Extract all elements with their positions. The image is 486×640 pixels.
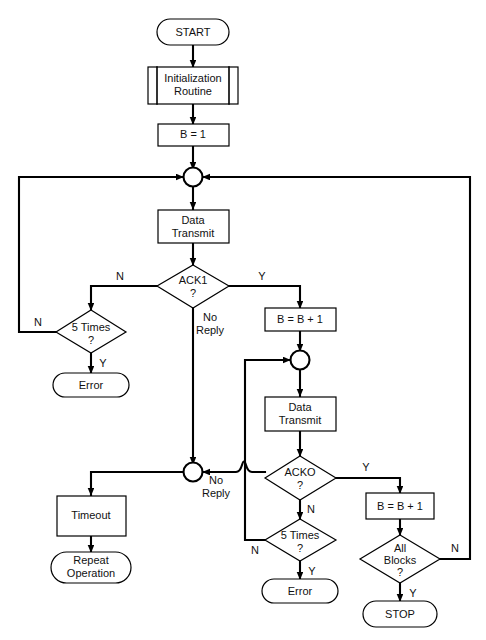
junction-noreply-shape bbox=[184, 463, 203, 482]
node-b-increment-2[interactable]: B = B + 1 bbox=[366, 493, 434, 519]
label-fivetimes2-no: N bbox=[251, 544, 259, 556]
node-acko-decision[interactable]: ACKO ? bbox=[265, 456, 336, 500]
data-transmit-2-label-line2: Transmit bbox=[279, 414, 321, 426]
flowchart-svg: START Initialization Routine B = 1 Data … bbox=[0, 0, 486, 640]
label-ack1-noreply-line2: Reply bbox=[196, 324, 225, 336]
node-junction-mid bbox=[291, 351, 310, 370]
node-five-times-2[interactable]: 5 Times ? bbox=[265, 519, 336, 561]
node-ack1-decision[interactable]: ACK1 ? bbox=[157, 265, 229, 308]
node-timeout[interactable]: Timeout bbox=[57, 496, 126, 536]
node-b-equals-1[interactable]: B = 1 bbox=[158, 124, 229, 146]
data-transmit-2-label-line1: Data bbox=[288, 401, 312, 413]
node-all-blocks[interactable]: All Blocks ? bbox=[360, 535, 440, 583]
edge-fivetimes1-no-loopback bbox=[19, 177, 183, 332]
node-error-1[interactable]: Error bbox=[53, 373, 129, 397]
repeat-operation-label-line2: Operation bbox=[67, 567, 115, 579]
init-routine-label-line2: Routine bbox=[174, 85, 212, 97]
node-data-transmit-2[interactable]: Data Transmit bbox=[265, 397, 336, 431]
node-error-2[interactable]: Error bbox=[262, 579, 338, 603]
label-ack1-no: N bbox=[116, 270, 124, 282]
ack1-label-line2: ? bbox=[190, 287, 196, 299]
label-ack1-yes: Y bbox=[258, 270, 266, 282]
init-routine-label-line1: Initialization bbox=[164, 72, 221, 84]
acko-label-line1: ACKO bbox=[284, 466, 316, 478]
node-junction-noreply bbox=[184, 463, 203, 482]
start-label: START bbox=[175, 26, 210, 38]
edge-acko-yes-to-bincrement2 bbox=[336, 478, 400, 493]
acko-label-line2: ? bbox=[297, 479, 303, 491]
error-2-label: Error bbox=[288, 585, 313, 597]
label-acko-noreply-line2: Reply bbox=[202, 487, 231, 499]
label-fivetimes1-yes: Y bbox=[99, 357, 107, 369]
edge-junction-noreply-to-timeout bbox=[91, 472, 184, 495]
repeat-operation-label-line1: Repeat bbox=[73, 554, 108, 566]
stop-label: STOP bbox=[385, 608, 415, 620]
edge-fivetimes2-no-loopback bbox=[245, 360, 290, 540]
all-blocks-label-line2: Blocks bbox=[384, 554, 417, 566]
flowchart-canvas: START Initialization Routine B = 1 Data … bbox=[0, 0, 486, 640]
node-five-times-1[interactable]: 5 Times ? bbox=[56, 310, 126, 353]
timeout-label: Timeout bbox=[71, 509, 110, 521]
label-acko-noreply-line1: No bbox=[209, 474, 223, 486]
five-times-2-label-line1: 5 Times bbox=[281, 529, 320, 541]
label-allblocks-yes: Y bbox=[409, 587, 417, 599]
five-times-1-label-line2: ? bbox=[88, 334, 94, 346]
label-fivetimes1-no: N bbox=[34, 316, 42, 328]
all-blocks-label-line1: All bbox=[394, 542, 406, 554]
b-equals-1-label: B = 1 bbox=[180, 128, 206, 140]
label-acko-no: N bbox=[307, 503, 315, 515]
five-times-1-label-line1: 5 Times bbox=[72, 321, 111, 333]
label-acko-yes: Y bbox=[362, 461, 370, 473]
node-stop[interactable]: STOP bbox=[363, 601, 437, 627]
node-initialization-routine[interactable]: Initialization Routine bbox=[148, 67, 238, 104]
label-allblocks-no: N bbox=[451, 542, 459, 554]
node-start[interactable]: START bbox=[157, 19, 229, 45]
error-1-label: Error bbox=[79, 379, 104, 391]
data-transmit-1-label-line1: Data bbox=[181, 214, 205, 226]
junction-mid-shape bbox=[291, 351, 310, 370]
edge-acko-noreply-to-junction bbox=[203, 462, 265, 473]
data-transmit-1-label-line2: Transmit bbox=[172, 227, 214, 239]
all-blocks-label-line3: ? bbox=[397, 566, 403, 578]
node-repeat-operation[interactable]: Repeat Operation bbox=[51, 552, 131, 583]
label-fivetimes2-yes: Y bbox=[308, 565, 316, 577]
b-increment-1-label: B = B + 1 bbox=[277, 313, 323, 325]
node-b-increment-1[interactable]: B = B + 1 bbox=[265, 308, 336, 331]
edge-ack1-no-to-fivetimes1 bbox=[91, 286, 157, 310]
junction-top-shape bbox=[184, 168, 203, 187]
edge-ack1-yes-to-bincrement1 bbox=[229, 286, 300, 308]
ack1-label-line1: ACK1 bbox=[179, 274, 208, 286]
five-times-2-label-line2: ? bbox=[297, 542, 303, 554]
label-ack1-noreply-line1: No bbox=[203, 311, 217, 323]
b-increment-2-label: B = B + 1 bbox=[377, 500, 423, 512]
node-data-transmit-1[interactable]: Data Transmit bbox=[158, 210, 229, 243]
node-junction-top bbox=[184, 168, 203, 187]
